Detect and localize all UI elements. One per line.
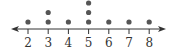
data-dot [46,19,51,24]
data-dot [25,19,30,24]
data-dot [86,0,91,5]
tick-label: 7 [125,36,133,50]
tick-label: 6 [105,36,113,50]
axis-ticks [28,29,149,34]
data-dot [147,19,152,24]
data-dot [106,19,111,24]
tick-label: 8 [145,36,153,50]
tick-label: 4 [65,36,73,50]
data-dot [86,19,91,24]
data-dot [86,10,91,15]
data-dot [126,19,131,24]
tick-label: 2 [24,36,32,50]
tick-label: 3 [44,36,52,50]
data-dots [25,0,151,24]
axis-tick-labels: 2345678 [24,36,153,50]
tick-label: 5 [85,36,93,50]
data-dot [46,10,51,15]
dot-plot: 2345678 [0,0,173,50]
data-dot [66,19,71,24]
